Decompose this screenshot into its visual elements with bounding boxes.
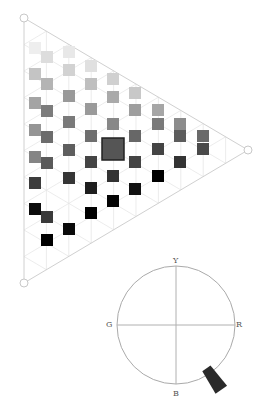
triangle-grid (24, 31, 226, 270)
color-swatch[interactable] (41, 105, 53, 117)
color-swatch[interactable] (41, 211, 53, 223)
color-swatch[interactable] (63, 172, 75, 184)
vertex-handle-right[interactable] (244, 146, 252, 154)
selected-swatch[interactable] (102, 138, 124, 160)
color-swatch[interactable] (85, 207, 97, 219)
label-green: G (106, 320, 112, 329)
color-swatch[interactable] (63, 116, 75, 128)
color-swatch[interactable] (29, 97, 41, 109)
color-swatch[interactable] (63, 223, 75, 235)
color-swatch[interactable] (29, 124, 41, 136)
color-swatch[interactable] (152, 104, 164, 116)
color-swatch[interactable] (85, 130, 97, 142)
color-swatch[interactable] (29, 42, 41, 54)
color-swatch[interactable] (129, 87, 141, 99)
color-swatch[interactable] (107, 91, 119, 103)
color-swatch[interactable] (152, 143, 164, 155)
color-swatch[interactable] (29, 68, 41, 80)
color-swatch[interactable] (152, 170, 164, 182)
hue-handle[interactable] (202, 366, 227, 394)
color-swatch[interactable] (174, 130, 186, 142)
color-swatch[interactable] (41, 51, 53, 63)
color-swatch[interactable] (85, 60, 97, 72)
color-swatch[interactable] (41, 234, 53, 246)
color-swatch[interactable] (197, 143, 209, 155)
color-triangle-picker[interactable] (0, 0, 260, 300)
color-swatch[interactable] (107, 195, 119, 207)
color-swatch[interactable] (174, 156, 186, 168)
color-swatch[interactable] (174, 118, 186, 130)
color-swatch[interactable] (41, 131, 53, 143)
color-swatch[interactable] (41, 78, 53, 90)
label-red: R (236, 320, 242, 329)
color-swatch[interactable] (41, 157, 53, 169)
color-swatch[interactable] (129, 183, 141, 195)
color-swatch[interactable] (129, 104, 141, 116)
color-swatch[interactable] (107, 73, 119, 85)
color-swatch[interactable] (152, 118, 164, 130)
color-swatch[interactable] (197, 130, 209, 142)
color-swatch[interactable] (129, 130, 141, 142)
vertex-handle-bottom-left[interactable] (20, 279, 28, 287)
color-swatch[interactable] (107, 118, 119, 130)
label-yellow: Y (173, 256, 178, 265)
color-swatch[interactable] (85, 156, 97, 168)
vertex-handle-top-left[interactable] (20, 14, 28, 22)
color-swatch[interactable] (63, 46, 75, 58)
label-blue: B (173, 389, 179, 398)
color-swatch[interactable] (107, 170, 119, 182)
color-swatch[interactable] (29, 203, 41, 215)
color-swatch[interactable] (29, 177, 41, 189)
color-swatch[interactable] (85, 78, 97, 90)
color-swatch[interactable] (85, 182, 97, 194)
color-swatch[interactable] (63, 64, 75, 76)
color-swatch[interactable] (63, 144, 75, 156)
color-swatch[interactable] (63, 90, 75, 102)
color-swatch[interactable] (129, 156, 141, 168)
color-swatch[interactable] (29, 151, 41, 163)
color-swatch[interactable] (85, 103, 97, 115)
